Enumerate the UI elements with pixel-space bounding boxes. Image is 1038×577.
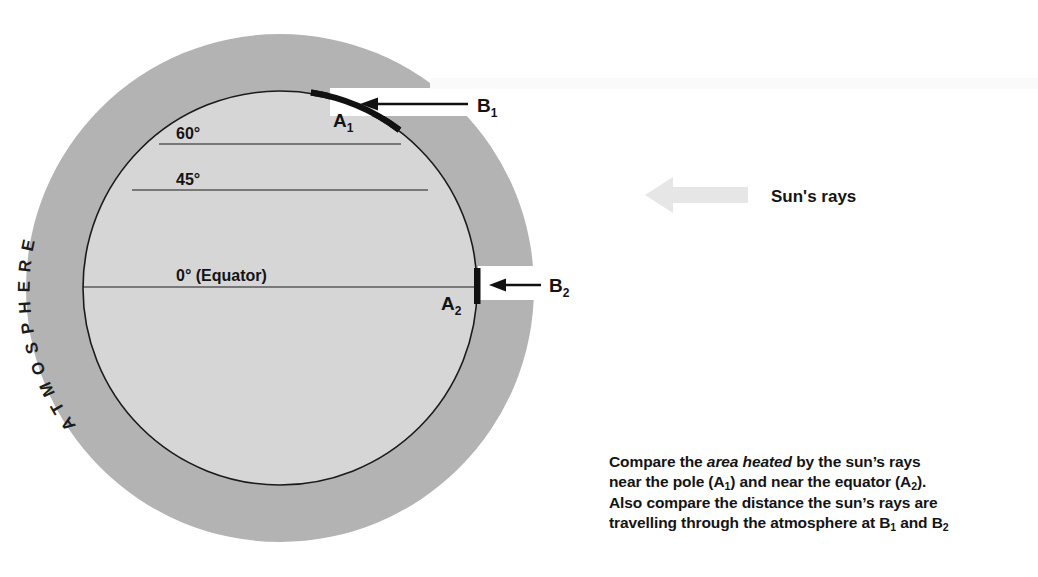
caption-text: Compare the area heated by the sun’s ray… xyxy=(609,452,1029,534)
sun-rays-label: Sun's rays xyxy=(771,187,856,206)
caption-l4-b: and B xyxy=(896,514,943,531)
caption-line-2: near the pole (A1) and near the equator … xyxy=(609,472,1029,494)
b1-white-band xyxy=(330,88,1038,116)
latitude-label-equator: 0° (Equator) xyxy=(176,267,267,284)
caption-emphasis-area-heated: area heated xyxy=(707,453,792,470)
caption-sub-b2: 2 xyxy=(943,521,949,533)
earth-insolation-diagram: 60° 45° 0° (Equator) ATMOSPHERE A1 B1 xyxy=(0,0,1038,577)
caption-l2-b: ) and near the equator (A xyxy=(730,473,911,490)
caption-line-4: travelling through the atmosphere at B1 … xyxy=(609,513,1029,535)
area-a2-segment xyxy=(474,268,481,304)
latitude-label-45: 45° xyxy=(176,171,200,188)
caption-sub-b1: 1 xyxy=(890,521,896,533)
caption-l2-a: near the pole (A xyxy=(609,473,725,490)
caption-line-3: Also compare the distance the sun’s rays… xyxy=(609,493,1029,513)
caption-l1-pre: Compare the xyxy=(609,453,707,470)
caption-l2-c: ). xyxy=(917,473,926,490)
sun-rays-arrow-icon xyxy=(645,177,748,213)
caption-sub-a1: 1 xyxy=(725,480,731,492)
caption-line-1: Compare the area heated by the sun’s ray… xyxy=(609,452,1029,472)
latitude-label-60: 60° xyxy=(176,125,200,142)
caption-l1-post: by the sun’s rays xyxy=(792,453,921,470)
b1-white-band-upper xyxy=(430,78,1038,89)
earth-disc xyxy=(83,91,477,485)
caption-l4-a: travelling through the atmosphere at B xyxy=(609,514,890,531)
caption-sub-a2: 2 xyxy=(911,480,917,492)
